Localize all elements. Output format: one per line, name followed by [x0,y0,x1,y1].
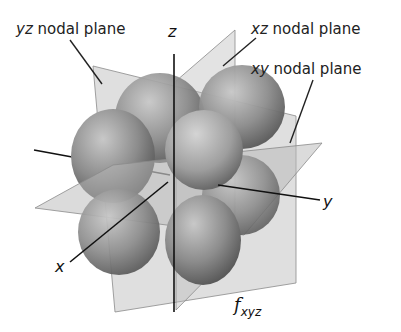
yz-var: yz [16,20,33,38]
lobe-upper-front [165,110,243,190]
xy-var: xy [251,60,269,78]
orbital-name-label: fxyz [234,296,261,318]
yz-label-text: nodal plane [33,20,126,38]
y-axis-label: y [323,194,332,210]
orbital-letter: f [234,294,241,315]
xy-plane-leader [290,80,313,143]
orbital-illustration [0,0,401,332]
xz-label-text: nodal plane [268,20,361,38]
f-xyz-orbital-diagram: yz nodal plane xz nodal plane xy nodal p… [0,0,401,332]
x-axis-label: x [55,259,64,275]
lobe-lower-left [78,189,160,275]
yz-nodal-plane-label: yz nodal plane [16,22,125,37]
lobe-lower-front [165,195,241,285]
xy-nodal-plane-label: xy nodal plane [251,62,361,77]
xz-var: xz [251,20,268,38]
xy-label-text: nodal plane [269,60,362,78]
z-axis-label: z [168,24,176,40]
xz-nodal-plane-label: xz nodal plane [251,22,360,37]
yz-plane-leader [70,40,102,84]
orbital-subscript: xyz [241,305,262,319]
